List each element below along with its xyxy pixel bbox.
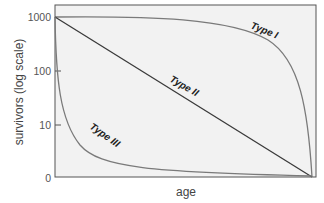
y-axis-title: survivors (log scale) (12, 39, 26, 146)
y-tick-label-0: 0 (45, 172, 51, 184)
y-axis: 1000 100 10 0 survivors (log scale) (12, 11, 61, 184)
survivorship-chart: 1000 100 10 0 survivors (log scale) age … (0, 0, 324, 203)
y-tick-label-100: 100 (33, 65, 51, 77)
y-tick-label-1000: 1000 (28, 11, 52, 23)
x-axis-title: age (176, 185, 196, 199)
y-tick-label-10: 10 (39, 119, 51, 131)
